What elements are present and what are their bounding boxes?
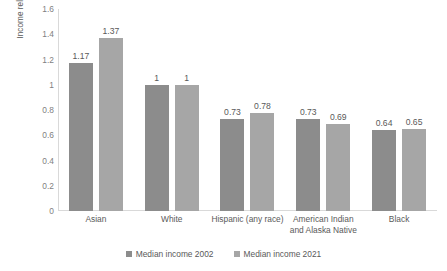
x-axis-category-label-line: American Indian — [285, 214, 361, 225]
bar-column[interactable]: 0.69 — [326, 9, 350, 211]
x-axis-category-label: American Indianand Alaska Native — [285, 214, 361, 236]
bar-group: 1.171.37 — [58, 9, 134, 211]
x-axis-category-label-line: Hispanic (any race) — [210, 214, 286, 225]
bar-group: 0.730.69 — [285, 9, 361, 211]
legend-swatch-icon — [234, 251, 240, 257]
bar[interactable] — [145, 85, 169, 211]
bar-value-label: 1 — [165, 73, 209, 83]
y-axis-tick: 1.4 — [26, 30, 54, 39]
legend-label: Median income 2021 — [244, 249, 322, 259]
y-axis-tick: 1.2 — [26, 55, 54, 64]
legend-item[interactable]: Median income 2021 — [234, 249, 322, 259]
bar-value-label: 0.69 — [316, 112, 360, 122]
y-axis-tick-labels: 1.61.41.210.80.60.40.20 — [26, 0, 54, 212]
bar-group-bars: 11 — [134, 9, 210, 211]
bar-value-label: 1.37 — [89, 26, 133, 36]
x-axis-category-label: Black — [361, 214, 437, 225]
x-axis-category-label: White — [134, 214, 210, 225]
bar-group-bars: 1.171.37 — [58, 9, 134, 211]
bar-column[interactable]: 1.37 — [99, 9, 123, 211]
y-axis-tick: 0.6 — [26, 131, 54, 140]
x-axis-category-labels: AsianWhiteHispanic (any race)American In… — [58, 214, 437, 248]
bar[interactable] — [69, 63, 93, 211]
x-axis-category-label: Hispanic (any race) — [210, 214, 286, 225]
plot-area: 1.171.37110.730.780.730.690.640.65 — [58, 9, 437, 211]
y-axis-tick: 1 — [26, 80, 54, 89]
bar[interactable] — [326, 124, 350, 211]
x-axis-category-label-line: and Alaska Native — [285, 225, 361, 236]
bar-group-bars: 0.730.69 — [285, 9, 361, 211]
y-axis-tick: 0 — [26, 207, 54, 216]
bar-column[interactable]: 1.17 — [69, 9, 93, 211]
x-axis-category-label-line: Asian — [58, 214, 134, 225]
legend-item[interactable]: Median income 2002 — [126, 249, 214, 259]
bar-column[interactable]: 0.65 — [402, 9, 426, 211]
x-axis-category-label-line: White — [134, 214, 210, 225]
chart-legend: Median income 2002Median income 2021 — [0, 249, 447, 259]
bar-group: 0.730.78 — [210, 9, 286, 211]
bar-group: 0.640.65 — [361, 9, 437, 211]
bar[interactable] — [99, 38, 123, 211]
x-axis-category-label-line: Black — [361, 214, 437, 225]
bar-column[interactable]: 0.73 — [296, 9, 320, 211]
bar-group-bars: 0.640.65 — [361, 9, 437, 211]
bar-chart: Income relative to White houssholds 1.61… — [0, 0, 447, 271]
bar[interactable] — [175, 85, 199, 211]
y-axis-tick: 0.8 — [26, 106, 54, 115]
bar[interactable] — [296, 119, 320, 211]
y-axis-tick: 1.6 — [26, 5, 54, 14]
bar-value-label: 0.65 — [392, 117, 436, 127]
bar-column[interactable]: 0.78 — [250, 9, 274, 211]
bar-value-label: 0.78 — [240, 101, 284, 111]
legend-swatch-icon — [126, 251, 132, 257]
bar[interactable] — [372, 130, 396, 211]
bar-group-bars: 0.730.78 — [210, 9, 286, 211]
bar[interactable] — [250, 113, 274, 211]
legend-label: Median income 2002 — [136, 249, 214, 259]
bar-column[interactable]: 1 — [175, 9, 199, 211]
x-axis-category-label: Asian — [58, 214, 134, 225]
bar-value-label: 1.17 — [59, 51, 103, 61]
bar-column[interactable]: 0.64 — [372, 9, 396, 211]
bar-group: 11 — [134, 9, 210, 211]
bar[interactable] — [402, 129, 426, 211]
y-axis-tick: 0.2 — [26, 181, 54, 190]
y-axis-tick: 0.4 — [26, 156, 54, 165]
bar[interactable] — [220, 119, 244, 211]
bar-column[interactable]: 1 — [145, 9, 169, 211]
